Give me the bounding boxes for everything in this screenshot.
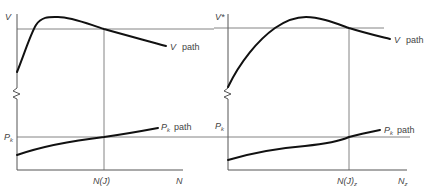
right-y-label-vstar: V* <box>215 12 225 22</box>
right-y-label-pk: Pk <box>215 121 225 132</box>
right-v-path-label: Vpath <box>394 35 424 45</box>
right-x-mark-label: N(J)z <box>337 176 357 187</box>
left-v-path-label: Vpath <box>170 42 200 52</box>
right-v-path-curve <box>228 17 390 87</box>
left-x-mark-label: N(J) <box>93 176 110 186</box>
right-pk-path-curve <box>228 130 380 160</box>
right-panel: V* Pk N(J)z Nz Vpath Pkpath <box>214 12 424 187</box>
left-x-axis-label: N <box>176 176 183 186</box>
left-y-label-pk: Pk <box>4 132 14 143</box>
right-axis-break-icon <box>224 88 231 99</box>
left-axis-break-icon <box>13 88 20 99</box>
right-pk-path-label: Pkpath <box>384 125 415 136</box>
left-pk-path-label: Pkpath <box>161 122 192 133</box>
left-panel: V Pk N(J) N Vpath Pkpath <box>4 12 214 186</box>
left-pk-path-curve <box>17 128 158 155</box>
diagram-canvas: V Pk N(J) N Vpath Pkpath V* Pk N(J)z Nz … <box>0 0 428 190</box>
left-v-path-curve <box>17 17 166 72</box>
right-x-axis-label: Nz <box>398 176 408 187</box>
left-y-label-v: V <box>5 12 12 22</box>
